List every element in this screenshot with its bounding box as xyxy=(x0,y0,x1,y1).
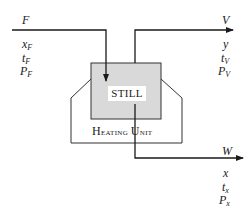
vapor-stream-line xyxy=(135,30,233,63)
vapor-name-label: V xyxy=(222,14,229,26)
vapor-pressure-label: PV xyxy=(218,65,230,81)
feed-name-label: F xyxy=(22,14,29,26)
liquid-pressure-label: Px xyxy=(219,194,230,210)
feed-pressure-label: PF xyxy=(20,65,32,81)
liquid-name-label: W xyxy=(222,145,232,157)
still-label: STILL xyxy=(108,86,146,101)
diagram-canvas xyxy=(0,0,251,212)
heating-unit-label: Heating Unit xyxy=(92,124,152,139)
